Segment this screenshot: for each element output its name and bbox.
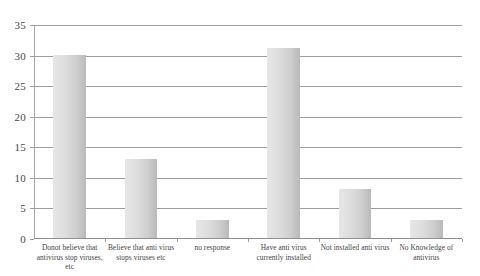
- bar: [339, 189, 372, 238]
- x-axis-tick-mark: [177, 239, 178, 242]
- x-axis-category-labels: Donot believe that antivirus stop viruse…: [34, 243, 462, 276]
- x-axis-category-label: Donot believe that antivirus stop viruse…: [34, 243, 105, 272]
- bar: [53, 55, 86, 238]
- bar: [125, 159, 158, 238]
- x-axis-category-label: No Knowledge of antivirus: [391, 243, 462, 262]
- x-axis-tick-mark: [248, 239, 249, 242]
- y-axis-tick-label: 25: [15, 81, 26, 92]
- y-axis-tick-label: 0: [20, 234, 26, 245]
- x-axis-category-label: Have anti virus currently installed: [248, 243, 319, 262]
- bar-series: [34, 25, 462, 239]
- y-axis-tick-label: 5: [20, 203, 26, 214]
- y-axis-tick-label: 35: [15, 20, 26, 31]
- y-axis-tick-label: 30: [15, 50, 26, 61]
- y-axis-tick-mark: [30, 239, 34, 240]
- y-axis-tick-labels: 05101520253035: [0, 0, 34, 276]
- x-axis-category-label: Believe that anti virus stops viruses et…: [105, 243, 176, 262]
- x-axis-category-label: Not installed anti virus: [319, 243, 390, 253]
- bar: [196, 220, 229, 238]
- x-axis-tick-mark: [462, 239, 463, 242]
- y-axis-tick-label: 20: [15, 111, 26, 122]
- bar-chart: 05101520253035 Donot believe that antivi…: [0, 0, 480, 276]
- bar: [267, 48, 300, 238]
- bar: [410, 220, 443, 238]
- x-axis-category-label: no response: [177, 243, 248, 253]
- y-axis-tick-label: 15: [15, 142, 26, 153]
- y-axis-tick-label: 10: [15, 172, 26, 183]
- x-axis-tick-mark: [319, 239, 320, 242]
- x-axis-tick-mark: [105, 239, 106, 242]
- plot-area: [34, 25, 462, 239]
- x-axis-tick-mark: [391, 239, 392, 242]
